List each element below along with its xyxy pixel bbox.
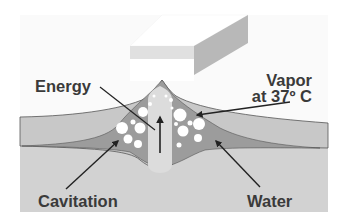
water-label: Water <box>247 193 292 210</box>
cavitation-diagram: Energy Vapor at 37º C Cavitation Water <box>0 0 341 223</box>
diagram-illustration <box>0 0 341 223</box>
energy-label: Energy <box>35 78 91 95</box>
vapor-label-line2: at 37º C <box>232 88 312 105</box>
cavitation-label: Cavitation <box>38 193 118 210</box>
